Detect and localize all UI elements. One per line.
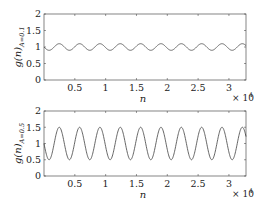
x-multiplier-exponent: 4 (249, 187, 253, 195)
chart-bottom-panel: 00.511.520.511.522.53× 104ng(n)A=0.5 (12, 105, 254, 200)
y-tick-label: 1.5 (26, 25, 41, 36)
y-axis-label-main: g(n) (12, 143, 23, 164)
data-line (44, 127, 246, 160)
x-axis-label: n (140, 93, 146, 104)
y-axis-label-subscript: A=0.1 (18, 26, 26, 47)
x-tick-label: 2.5 (191, 178, 206, 189)
y-tick-label: 0.5 (26, 58, 41, 69)
x-axis-label: n (140, 189, 146, 200)
y-axis-label-main: g(n) (12, 47, 23, 68)
x-tick-label: 1.5 (129, 178, 144, 189)
x-tick-label: 3 (226, 178, 232, 189)
x-tick-label: 3 (226, 82, 232, 93)
y-tick-label: 1 (35, 138, 41, 149)
x-tick-label: 1 (103, 178, 109, 189)
y-axis-label: g(n)A=0.1 (12, 26, 26, 67)
y-tick-label: 1 (35, 41, 41, 52)
y-tick-label: 0 (35, 74, 41, 85)
x-tick-label: 2 (164, 178, 170, 189)
y-tick-label: 2 (35, 8, 41, 19)
x-tick-label: 1 (103, 82, 109, 93)
chart-top-panel: 00.511.520.511.522.53× 104ng(n)A=0.1 (12, 8, 254, 104)
x-tick-label: 2.5 (191, 82, 206, 93)
x-tick-label: 2 (164, 82, 170, 93)
x-tick-label: 0.5 (67, 82, 82, 93)
y-tick-label: 0.5 (26, 154, 41, 165)
y-tick-label: 2 (35, 105, 41, 116)
data-line (44, 44, 246, 51)
y-axis-label: g(n)A=0.5 (12, 123, 26, 164)
y-tick-label: 0 (35, 170, 41, 181)
x-tick-label: 1.5 (129, 82, 144, 93)
y-axis-label-subscript: A=0.5 (18, 123, 26, 144)
y-tick-label: 1.5 (26, 122, 41, 133)
figure: 00.511.520.511.522.53× 104ng(n)A=0.1 00.… (0, 0, 257, 209)
x-tick-label: 0.5 (67, 178, 82, 189)
x-multiplier-exponent: 4 (249, 91, 253, 99)
